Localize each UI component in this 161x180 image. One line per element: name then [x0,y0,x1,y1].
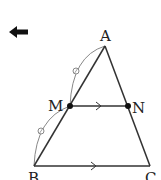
label-c: C [145,169,156,180]
point-m [67,103,73,109]
label-b: B [28,169,39,180]
triangle-diagram: A M N B C [0,0,161,180]
label-n: N [132,99,145,117]
label-a: A [99,27,111,45]
left-arrow-icon[interactable] [9,26,28,38]
point-n [125,103,131,109]
label-m: M [48,97,63,115]
